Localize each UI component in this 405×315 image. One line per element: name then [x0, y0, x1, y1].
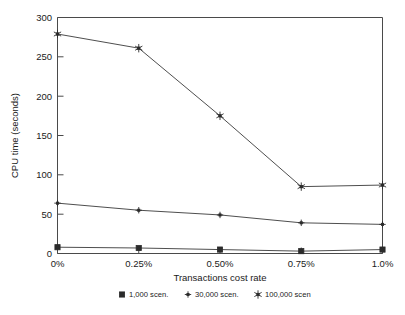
y-tick-label-50: 50: [41, 209, 52, 220]
chart-legend: 1,000 scen.30,000 scen.100,000 scen: [119, 290, 310, 299]
series-3: [54, 30, 386, 191]
asterisk-marker-icon: [254, 290, 261, 298]
legend-entry-2: 30,000 scen.: [185, 290, 239, 299]
x-tick-label-4: 1.0%: [372, 258, 394, 269]
plus-marker-icon: [136, 207, 142, 213]
chart-figure: 300 250 200 150 100 50 0 0% 0.25% 0.50% …: [0, 0, 405, 315]
plus-marker-icon: [54, 200, 60, 206]
y-tick-label-100: 100: [36, 169, 52, 180]
x-axis-title: Transactions cost rate: [173, 272, 266, 283]
x-axis-tick-labels: 0% 0.25% 0.50% 0.75% 1.0%: [51, 258, 394, 269]
series-2: [54, 200, 385, 228]
y-axis-title: CPU time (seconds): [9, 93, 20, 178]
legend-entry-1: 1,000 scen.: [119, 290, 168, 299]
y-tick-label-300: 300: [36, 12, 52, 23]
series-line: [58, 34, 383, 187]
y-tick-label-150: 150: [36, 130, 52, 141]
x-tick-label-0: 0%: [51, 258, 65, 269]
legend-entry-3: 100,000 scen: [254, 290, 310, 299]
asterisk-marker-icon: [216, 112, 223, 120]
y-axis-tick-labels: 300 250 200 150 100 50 0: [36, 12, 52, 259]
series-layer: [54, 30, 386, 254]
chart-svg: 300 250 200 150 100 50 0 0% 0.25% 0.50% …: [0, 0, 405, 315]
square-marker-icon: [136, 245, 141, 250]
square-marker-icon: [217, 247, 222, 252]
x-tick-label-3: 0.75%: [288, 258, 315, 269]
square-marker-icon: [299, 249, 304, 254]
plus-marker-icon: [185, 291, 191, 297]
legend-label: 30,000 scen.: [195, 290, 239, 299]
plus-marker-icon: [217, 212, 223, 218]
x-tick-label-1: 0.25%: [125, 258, 152, 269]
y-tick-label-250: 250: [36, 51, 52, 62]
plus-marker-icon: [379, 221, 385, 227]
legend-label: 1,000 scen.: [129, 290, 168, 299]
x-tick-label-2: 0.50%: [207, 258, 234, 269]
square-marker-icon: [380, 247, 385, 252]
y-axis-ticks: [58, 18, 64, 254]
legend-label: 100,000 scen: [265, 290, 311, 299]
square-marker-icon: [119, 292, 124, 297]
series-1: [55, 245, 385, 254]
square-marker-icon: [55, 245, 60, 250]
y-tick-label-200: 200: [36, 91, 52, 102]
plus-marker-icon: [298, 220, 304, 226]
